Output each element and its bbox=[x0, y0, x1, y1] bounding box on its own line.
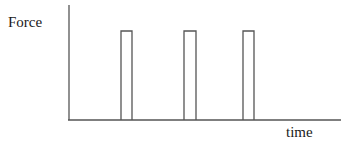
pulse-group bbox=[121, 31, 254, 120]
pulse-3 bbox=[243, 31, 254, 120]
pulse-1 bbox=[121, 31, 132, 120]
force-time-plot bbox=[0, 0, 347, 142]
pulse-2 bbox=[184, 31, 196, 120]
